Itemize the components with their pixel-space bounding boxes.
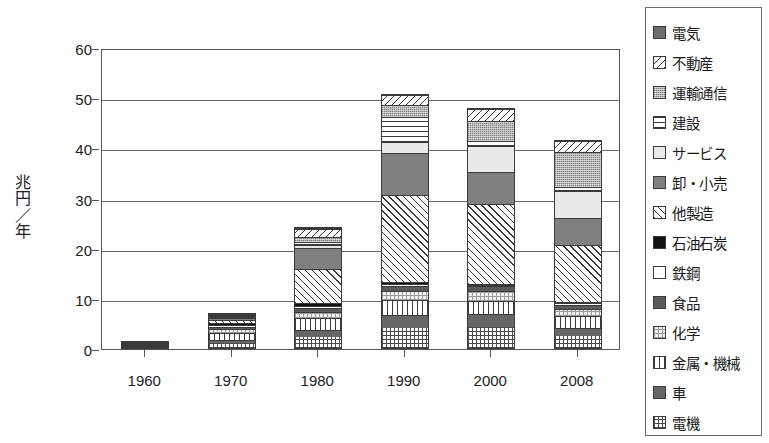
bar-segment [555,141,601,152]
y-tick-mark [92,250,99,251]
legend-item-label: サービス [672,142,726,163]
y-axis-title: 兆円／年 [8,175,38,240]
y-tick-label: 0 [84,342,92,359]
y-tick-label: 50 [75,91,92,108]
legend-item-label: 食品 [672,292,699,313]
legend-item-石油石炭[interactable]: 石油石炭 [653,227,761,257]
legend-swatch-icon [653,236,666,249]
x-tick-mark [317,350,318,357]
bar-segment [295,337,341,348]
bar-segment [555,309,601,316]
legend-item-建設[interactable]: 建設 [653,107,761,137]
legend-swatch-icon [653,416,666,429]
legend-swatch-icon [653,266,666,279]
x-tick-label-1980: 1980 [301,372,334,389]
y-axis-title-char: 年 [8,224,38,240]
bar-segment [382,95,428,105]
x-tick-label-1960: 1960 [128,372,161,389]
bar-segment [295,330,341,337]
y-tick-mark [92,49,99,50]
x-tick-mark [231,350,232,357]
legend-swatch-icon [653,356,666,369]
bar-segment [382,142,428,153]
legend-swatch-icon [653,386,666,399]
chart-root: 兆円／年 0102030405060 196019701980199020002… [0,0,769,443]
legend-item-鉄鋼[interactable]: 鉄鋼 [653,257,761,287]
gridline [102,100,619,101]
bar-segment [468,121,514,141]
bar-segment [382,328,428,348]
bar-1990[interactable] [381,94,429,349]
bar-segment [295,269,341,304]
legend-item-label: 金属・機械 [672,352,740,373]
y-tick-mark [92,300,99,301]
legend-swatch-icon [653,206,666,219]
legend-item-label: 車 [672,382,686,403]
bar-1980[interactable] [294,227,342,349]
bar-2000[interactable] [467,108,515,349]
legend-item-label: 卸・小売 [672,172,726,193]
y-tick-mark [92,200,99,201]
bar-segment [295,318,341,329]
legend-item-他製造[interactable]: 他製造 [653,197,761,227]
bar-segment [295,312,341,319]
legend-swatch-icon [653,116,666,129]
x-tick-mark [490,350,491,357]
x-tick-label-2000: 2000 [474,372,507,389]
legend-item-label: 電機 [672,412,699,433]
bar-segment [382,153,428,195]
bar-segment [555,191,601,218]
y-tick-mark [92,99,99,100]
legend-item-label: 鉄鋼 [672,262,699,283]
y-axis-ticks: 0102030405060 [40,49,92,350]
y-tick-mark [92,149,99,150]
bar-segment [555,316,601,328]
bar-2008[interactable] [554,140,602,349]
bar-segment [468,204,514,284]
legend-item-label: 他製造 [672,202,713,223]
legend-item-label: 石油石炭 [672,232,726,253]
bar-segment [295,229,341,236]
gridline [102,201,619,202]
bar-segment [382,300,428,315]
legend-item-サービス[interactable]: サービス [653,137,761,167]
x-tick-label-1990: 1990 [387,372,420,389]
plot-area [101,49,620,350]
x-tick-label-2008: 2008 [560,372,593,389]
bar-segment [555,328,601,336]
y-tick-label: 30 [75,191,92,208]
legend-swatch-icon [653,296,666,309]
legend-item-電気[interactable]: 電気 [653,17,761,47]
legend-item-label: 化学 [672,322,699,343]
legend-item-label: 運輸通信 [672,82,726,103]
bar-1970[interactable] [208,313,256,349]
y-tick-label: 20 [75,241,92,258]
bar-segment [555,218,601,244]
bar-segment [382,195,428,283]
x-tick-label-1970: 1970 [214,372,247,389]
bar-segment [382,291,428,300]
x-axis: 196019701980199020002008 [101,350,620,392]
bar-1960[interactable] [121,341,169,349]
y-axis-title-char: 円 [8,191,38,207]
legend-item-食品[interactable]: 食品 [653,287,761,317]
legend-swatch-icon [653,176,666,189]
x-tick-mark [144,350,145,357]
gridline [102,251,619,252]
legend-item-卸・小売[interactable]: 卸・小売 [653,167,761,197]
legend-item-label: 不動産 [672,52,713,73]
y-axis-title-char: 兆 [8,175,38,191]
gridline [102,301,619,302]
bar-segment [468,291,514,300]
legend-item-電機[interactable]: 電機 [653,407,761,437]
legend-item-不動産[interactable]: 不動産 [653,47,761,77]
legend-item-車[interactable]: 車 [653,377,761,407]
legend-item-化学[interactable]: 化学 [653,317,761,347]
legend-swatch-icon [653,86,666,99]
bar-segment [468,146,514,172]
bar-segment [555,245,601,303]
legend-item-運輸通信[interactable]: 運輸通信 [653,77,761,107]
legend-swatch-icon [653,26,666,39]
bar-segment [122,347,168,348]
legend-item-金属・機械[interactable]: 金属・機械 [653,347,761,377]
